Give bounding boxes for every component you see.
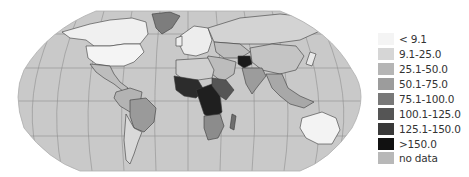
region-uk <box>176 36 182 46</box>
legend-swatch <box>378 48 394 60</box>
legend-label: >150.0 <box>399 138 437 150</box>
legend-label: no data <box>399 152 438 164</box>
legend-item: 125.1-150.0 <box>378 122 461 136</box>
legend-label: 50.1-75.0 <box>399 78 448 90</box>
legend-label: 75.1-100.0 <box>399 93 454 105</box>
legend-label: 100.1-125.0 <box>399 108 461 120</box>
legend-label: 25.1-50.0 <box>399 63 448 75</box>
legend-item: 25.1-50.0 <box>378 62 448 76</box>
legend-swatch <box>378 108 394 120</box>
legend-swatch <box>378 33 394 45</box>
legend-swatch <box>378 63 394 75</box>
region-new-zealand <box>344 144 354 156</box>
legend-swatch <box>378 123 394 135</box>
legend-swatch <box>378 152 394 164</box>
world-map <box>0 0 372 177</box>
legend-item: 50.1-75.0 <box>378 77 448 91</box>
region-north-africa <box>176 58 214 80</box>
legend-label: 125.1-150.0 <box>399 123 461 135</box>
legend-item: no data <box>378 151 438 165</box>
legend-swatch <box>378 138 394 150</box>
legend-swatch <box>378 93 394 105</box>
legend-label: < 9.1 <box>399 33 427 45</box>
legend-item: 100.1-125.0 <box>378 107 461 121</box>
legend-swatch <box>378 78 394 90</box>
legend-label: 9.1-25.0 <box>399 48 441 60</box>
legend-item: 9.1-25.0 <box>378 47 441 61</box>
legend-item: >150.0 <box>378 137 437 151</box>
legend-item: 75.1-100.0 <box>378 92 454 106</box>
legend-item: < 9.1 <box>378 32 427 46</box>
